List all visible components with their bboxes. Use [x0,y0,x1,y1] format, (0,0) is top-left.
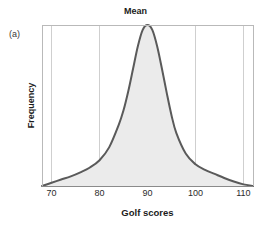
x-tick-label-100: 100 [180,188,210,198]
distribution-area [42,25,253,186]
x-tick-label-90: 90 [133,188,163,198]
x-tick-label-70: 70 [37,188,67,198]
area-fill [42,25,253,186]
x-tick-label-110: 110 [228,188,258,198]
figure-container: (a) Mean Frequency Golf scores 708090100… [0,0,271,228]
x-tick-label-80: 80 [85,188,115,198]
